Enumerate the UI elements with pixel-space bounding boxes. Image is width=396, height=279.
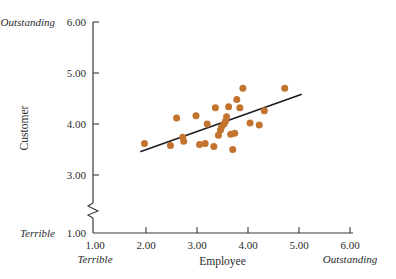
data-point	[229, 146, 236, 153]
data-point-group	[141, 85, 288, 153]
data-point	[225, 103, 232, 110]
data-point	[233, 96, 240, 103]
x-tick-label: 6.00	[340, 239, 360, 251]
data-point	[281, 85, 288, 92]
data-point	[210, 143, 217, 150]
x-tick-label: 1.00	[85, 239, 105, 251]
x-tick-label: 3.00	[187, 239, 207, 251]
x-axis-title: Employee	[199, 255, 246, 268]
data-point	[173, 114, 180, 121]
x-tick-label: 4.00	[238, 239, 258, 251]
data-point	[192, 112, 199, 119]
data-point	[167, 142, 174, 149]
y-tick-label: 1.00	[67, 227, 87, 239]
y-axis-break-symbol	[88, 203, 98, 218]
y-tick-label: 6.00	[67, 16, 87, 28]
x-axis-high-anchor: Outstanding	[323, 253, 378, 265]
y-axis-high-anchor: Outstanding	[1, 16, 56, 28]
x-tick-label: 2.00	[136, 239, 156, 251]
y-tick-label: 5.00	[67, 67, 87, 79]
data-point	[212, 104, 219, 111]
data-point	[180, 138, 187, 145]
data-point	[239, 85, 246, 92]
y-axis-low-anchor: Terrible	[20, 227, 55, 239]
data-point	[223, 113, 230, 120]
plot-canvas: 1.003.004.005.006.00OutstandingTerribleC…	[0, 0, 396, 279]
x-tick-label: 5.00	[289, 239, 309, 251]
data-point	[204, 121, 211, 128]
data-point	[141, 140, 148, 147]
scatter-plot-figure: 1.003.004.005.006.00OutstandingTerribleC…	[0, 0, 396, 279]
data-point	[256, 122, 263, 129]
y-tick-label: 3.00	[67, 169, 87, 181]
data-point	[231, 130, 238, 137]
data-point	[202, 140, 209, 147]
y-axis-title: Customer	[18, 105, 30, 150]
data-point	[236, 104, 243, 111]
y-tick-label: 4.00	[67, 118, 87, 130]
data-point	[261, 107, 268, 114]
x-axis-low-anchor: Terrible	[77, 253, 112, 265]
data-point	[247, 119, 254, 126]
